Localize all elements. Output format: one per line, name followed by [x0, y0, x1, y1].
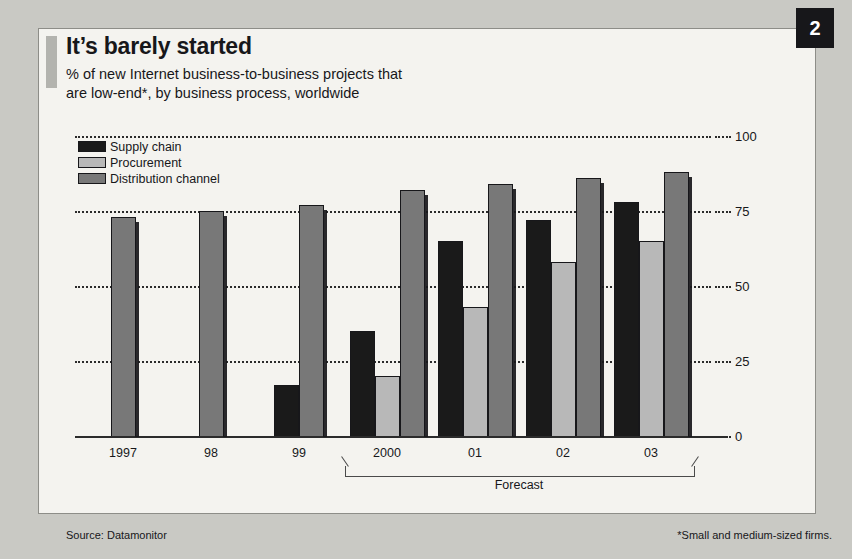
- bar: [614, 202, 639, 436]
- bar: [400, 190, 425, 436]
- bar: [438, 241, 463, 436]
- y-axis-tick-mark: [715, 211, 731, 213]
- title-accent-bar: [46, 36, 57, 88]
- bar: [526, 220, 551, 436]
- page-number-badge: 2: [796, 8, 834, 48]
- footnote: *Small and medium-sized firms.: [677, 529, 832, 541]
- y-axis-tick-mark: [715, 286, 731, 288]
- page-subtitle: % of new Internet business-to-business p…: [66, 65, 402, 103]
- page-title: It’s barely started: [66, 33, 252, 60]
- chart-page: It’s barely started % of new Internet bu…: [0, 0, 852, 559]
- x-axis-tick-label: 02: [556, 446, 570, 460]
- forecast-label: Forecast: [495, 478, 544, 492]
- bar: [111, 217, 136, 436]
- bar: [551, 262, 576, 436]
- bar: [488, 184, 513, 436]
- y-axis-tick-mark: [715, 136, 731, 138]
- bar: [375, 376, 400, 436]
- plot-area: 0255075100199798992000010203Forecast: [75, 130, 720, 436]
- bar: [664, 172, 689, 436]
- bar: [199, 211, 224, 436]
- bar: [350, 331, 375, 436]
- y-axis-tick-label: 0: [735, 429, 742, 444]
- bar: [463, 307, 488, 436]
- bar: [299, 205, 324, 436]
- y-axis-tick-label: 25: [735, 354, 749, 369]
- bar: [274, 385, 299, 436]
- y-axis-tick-label: 50: [735, 279, 749, 294]
- y-axis-tick-mark: [715, 361, 731, 363]
- bar: [576, 178, 601, 436]
- x-axis-tick-label: 2000: [373, 446, 401, 460]
- bar: [639, 241, 664, 436]
- y-axis-tick-label: 100: [735, 129, 757, 144]
- y-axis-tick-label: 75: [735, 204, 749, 219]
- x-axis-tick-label: 01: [468, 446, 482, 460]
- forecast-bracket: [345, 466, 695, 477]
- x-axis-tick-label: 03: [644, 446, 658, 460]
- x-axis-line: [75, 436, 728, 438]
- x-axis-tick-label: 98: [204, 446, 218, 460]
- gridline: [75, 136, 711, 138]
- x-axis-tick-label: 1997: [109, 446, 137, 460]
- source-note: Source: Datamonitor: [66, 529, 167, 541]
- x-axis-tick-label: 99: [292, 446, 306, 460]
